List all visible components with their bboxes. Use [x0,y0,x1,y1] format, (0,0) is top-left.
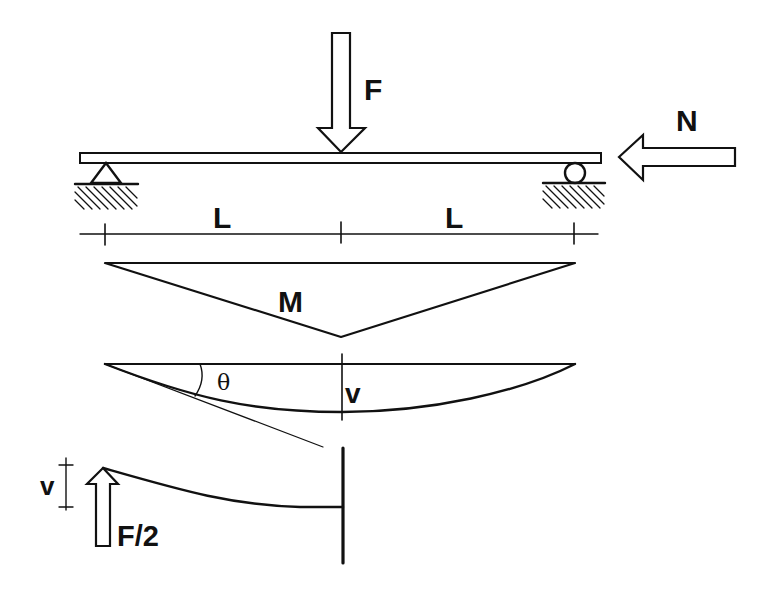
label-rotation-theta: θ [217,370,230,395]
cantilever-model [59,448,343,563]
label-moment-M: M [278,285,303,318]
ground-hatching-left [75,187,137,209]
beam [80,153,601,163]
deflected-shape [105,354,575,447]
label-span-left: L [213,201,231,234]
half-load-arrow [87,468,118,546]
pin-support-left [75,163,138,209]
label-span-right: L [445,201,463,234]
span-dimension-line [80,222,598,245]
load-arrow-F [318,33,365,152]
label-cantilever-deflection-v: v [40,471,55,501]
tip-deflection-dimension [59,458,73,510]
tangent-line [105,364,323,447]
beam-buckling-diagram: F N [0,0,770,603]
label-half-load: F/2 [117,520,159,552]
moment-diagram [105,263,575,337]
label-axial-N: N [676,104,698,137]
ground-hatching-right [543,186,604,208]
angle-arc-theta [195,364,202,396]
axial-arrow-N [619,135,735,180]
roller-support-right [543,163,605,208]
label-load-F: F [364,73,382,106]
cantilever-deflected-shape [103,468,343,507]
label-deflection-v: v [345,378,361,409]
